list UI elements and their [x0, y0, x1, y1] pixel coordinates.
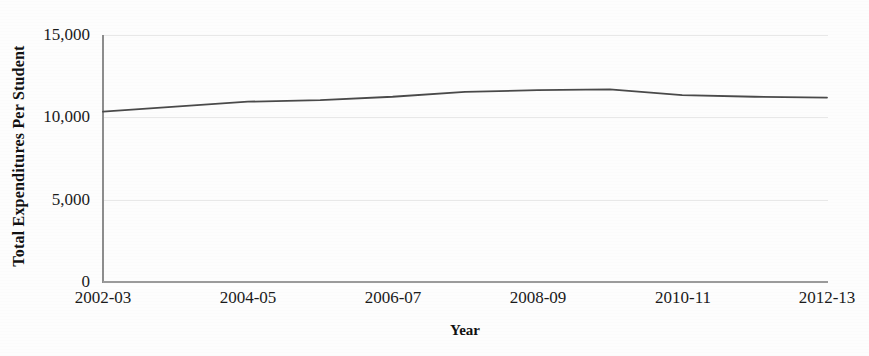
y-axis-title: Total Expenditures Per Student: [4, 6, 34, 306]
x-tick-label-2012-13: 2012-13: [772, 288, 869, 308]
x-tick-label-2004-05: 2004-05: [193, 288, 303, 308]
x-axis-line: [103, 281, 828, 283]
gridline-10000: [103, 117, 828, 118]
x-tick-label-2010-11: 2010-11: [628, 288, 738, 308]
y-tick-label-10000: 10,000: [10, 107, 90, 127]
gridline-5000: [103, 200, 828, 201]
x-axis-title: Year: [103, 322, 827, 339]
plot-area: [103, 35, 828, 282]
gridline-15000: [103, 35, 828, 36]
y-tick-label-5000: 5,000: [10, 190, 90, 210]
x-tick-label-2002-03: 2002-03: [48, 288, 158, 308]
y-axis-line: [102, 35, 104, 283]
x-tick-label-2006-07: 2006-07: [338, 288, 448, 308]
chart-figure: Total Expenditures Per Student 15,000 10…: [0, 0, 869, 356]
x-tick-label-2008-09: 2008-09: [483, 288, 593, 308]
y-tick-label-15000: 15,000: [10, 25, 90, 45]
